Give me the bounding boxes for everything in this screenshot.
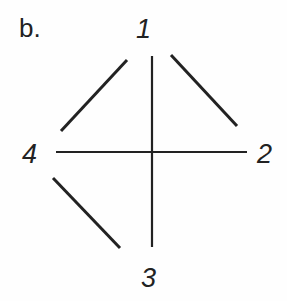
node-label-2: 2 xyxy=(256,139,272,169)
node-label-3: 3 xyxy=(141,263,156,293)
node-label-4: 4 xyxy=(22,139,37,169)
panel-label: b. xyxy=(19,13,41,43)
edge-4-3 xyxy=(53,178,120,248)
node-label-1: 1 xyxy=(136,14,151,44)
graph-diagram: b. 1 2 3 4 xyxy=(0,0,287,301)
edge-1-2 xyxy=(171,55,237,126)
diagram-canvas: b. 1 2 3 4 xyxy=(0,0,287,301)
edge-1-4 xyxy=(61,60,127,131)
